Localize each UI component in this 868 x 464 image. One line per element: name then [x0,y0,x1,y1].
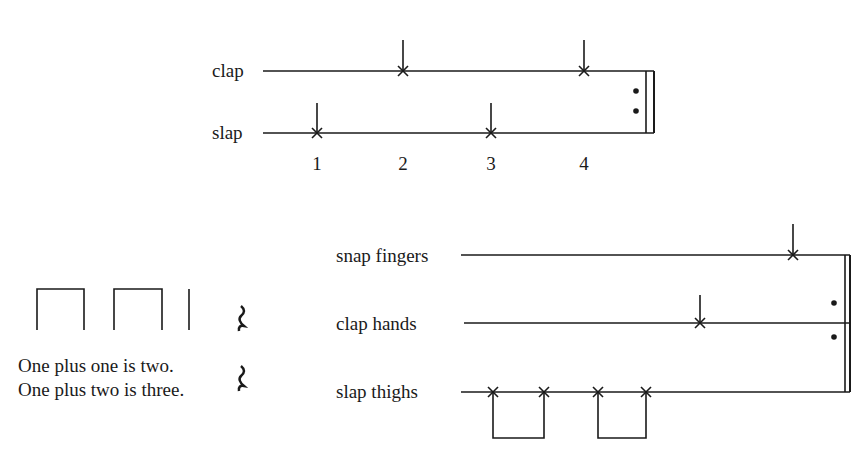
repeat-sign-1 [633,71,654,133]
rhythm-notation [37,289,189,330]
exercise2-staff [461,224,850,438]
exercise1-staff [263,40,654,138]
notation-diagram [0,0,868,464]
quarter-rest-icon [239,306,244,391]
slap-thighs-notes [488,387,651,438]
